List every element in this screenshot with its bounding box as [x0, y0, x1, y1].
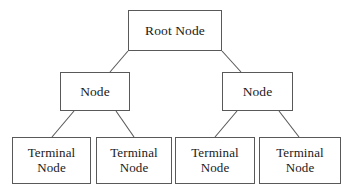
edge-right-node-to-terminal-4	[279, 111, 299, 137]
node-terminal-1: Terminal Node	[12, 137, 91, 184]
tree-diagram: Root Node Node Node Terminal Node Termin…	[0, 0, 354, 195]
node-left-branch: Node	[60, 72, 130, 111]
node-terminal-2: Terminal Node	[96, 137, 172, 184]
node-terminal-1-label: Terminal Node	[28, 146, 76, 175]
node-right-branch: Node	[222, 72, 293, 111]
node-left-branch-label: Node	[80, 84, 110, 99]
edge-left-node-to-terminal-2	[116, 111, 134, 137]
node-right-branch-label: Node	[243, 84, 273, 99]
node-root-label: Root Node	[145, 23, 205, 38]
node-terminal-3-label: Terminal Node	[191, 146, 239, 175]
edge-root-to-left-node	[110, 51, 128, 72]
node-terminal-3: Terminal Node	[175, 137, 255, 184]
edge-root-to-right-node	[222, 51, 241, 72]
node-terminal-4-label: Terminal Node	[276, 146, 324, 175]
edge-right-node-to-terminal-3	[215, 111, 237, 137]
node-root: Root Node	[128, 10, 222, 51]
node-terminal-2-label: Terminal Node	[110, 146, 158, 175]
node-terminal-4: Terminal Node	[259, 137, 341, 184]
edge-left-node-to-terminal-1	[52, 111, 74, 137]
